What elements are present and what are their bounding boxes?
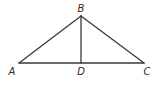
segments: [19, 16, 144, 63]
label-b: B: [78, 3, 85, 14]
label-a: A: [8, 66, 16, 77]
segment-bc: [81, 16, 144, 63]
segment-ab: [19, 16, 81, 63]
label-c: C: [144, 66, 151, 77]
label-d: D: [77, 66, 85, 77]
vertex-labels: A B C D: [8, 3, 151, 77]
triangle-diagram: A B C D: [0, 0, 161, 91]
